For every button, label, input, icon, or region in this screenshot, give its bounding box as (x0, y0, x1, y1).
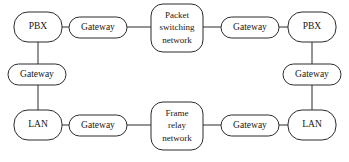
node-packet-switching-network[interactable]: Packetswitchingnetwork (151, 4, 203, 52)
node-pbx-right[interactable]: PBX (288, 12, 336, 42)
node-label-line: network (162, 35, 192, 45)
node-gateway-bottom-right[interactable]: Gateway (221, 115, 279, 136)
node-label-lan-left: LAN (28, 119, 48, 129)
node-label-line: Gateway (233, 120, 267, 130)
node-label-gateway-mid-right: Gateway (295, 69, 329, 79)
node-label-gateway-bottom-left: Gateway (81, 120, 115, 130)
node-gateway-top-left[interactable]: Gateway (69, 17, 127, 38)
node-label-line: Frame (166, 108, 189, 118)
node-label-gateway-bottom-right: Gateway (233, 120, 267, 130)
nodes-layer: PBXGatewayPacketswitchingnetworkGatewayP… (8, 4, 341, 150)
network-diagram-canvas: PBXGatewayPacketswitchingnetworkGatewayP… (0, 0, 349, 162)
node-label-pbx-left: PBX (29, 21, 48, 31)
node-label-line: Gateway (81, 22, 115, 32)
node-gateway-mid-right[interactable]: Gateway (283, 64, 341, 85)
node-label-line: PBX (303, 21, 322, 31)
node-label-line: LAN (302, 119, 322, 129)
node-gateway-mid-left[interactable]: Gateway (8, 64, 66, 85)
node-label-gateway-mid-left: Gateway (20, 69, 54, 79)
node-label-line: switching (160, 22, 195, 32)
node-label-line: Packet (165, 10, 189, 20)
node-frame-relay-network[interactable]: Framerelaynetwork (151, 102, 203, 150)
network-diagram: PBXGatewayPacketswitchingnetworkGatewayP… (0, 0, 349, 162)
node-label-gateway-top-left: Gateway (81, 22, 115, 32)
node-label-lan-right: LAN (302, 119, 322, 129)
node-label-line: Gateway (233, 22, 267, 32)
node-label-line: relay (168, 120, 186, 130)
node-gateway-top-right[interactable]: Gateway (221, 17, 279, 38)
node-gateway-bottom-left[interactable]: Gateway (69, 115, 127, 136)
node-label-line: Gateway (20, 69, 54, 79)
node-lan-left[interactable]: LAN (14, 110, 62, 140)
node-label-line: Gateway (81, 120, 115, 130)
node-lan-right[interactable]: LAN (288, 110, 336, 140)
node-label-line: Gateway (295, 69, 329, 79)
node-pbx-left[interactable]: PBX (14, 12, 62, 42)
node-label-line: PBX (29, 21, 48, 31)
node-label-line: network (162, 133, 192, 143)
node-label-gateway-top-right: Gateway (233, 22, 267, 32)
node-label-pbx-right: PBX (303, 21, 322, 31)
node-label-line: LAN (28, 119, 48, 129)
